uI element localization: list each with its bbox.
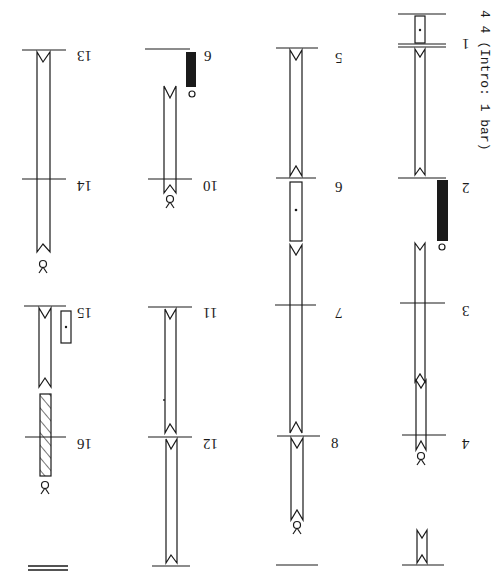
support-bracket <box>165 309 176 433</box>
support-bracket <box>291 438 303 520</box>
support-bracket <box>415 243 425 382</box>
support-bracket <box>415 49 425 175</box>
hatched-block-sign <box>40 394 51 476</box>
column-4 <box>22 50 71 570</box>
dot-icon <box>65 326 67 328</box>
black-block-sign <box>186 52 196 87</box>
release-sign-icon <box>166 196 174 209</box>
release-sign-icon <box>41 482 49 495</box>
release-sign-icon <box>293 522 301 535</box>
support-bracket <box>39 308 51 387</box>
support-bracket <box>416 380 426 450</box>
support-bracket <box>290 245 302 433</box>
release-sign-icon <box>417 453 425 466</box>
black-block-sign <box>437 180 448 241</box>
dot-icon <box>419 29 421 31</box>
dot-icon <box>295 209 298 212</box>
hold-circle-icon <box>189 91 195 97</box>
dotted-box-sign <box>290 182 302 241</box>
small-dot-mark <box>163 399 165 401</box>
support-bracket <box>37 52 50 252</box>
support-bracket <box>164 86 176 193</box>
notation-score <box>0 0 497 586</box>
support-bracket <box>166 439 177 563</box>
support-bracket <box>290 50 302 176</box>
column-1 <box>398 14 448 565</box>
column-3 <box>145 49 196 566</box>
release-sign-icon <box>39 261 47 274</box>
support-bracket <box>417 530 427 563</box>
hold-circle-icon <box>439 244 445 250</box>
column-2 <box>275 48 320 565</box>
